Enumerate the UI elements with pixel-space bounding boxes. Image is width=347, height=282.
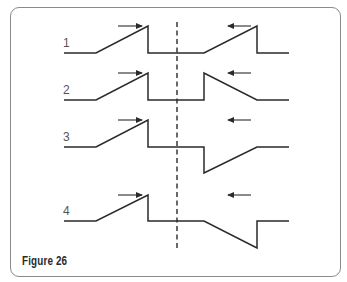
row-label: 4: [63, 204, 70, 218]
waveform-row-4: 4: [63, 195, 289, 248]
figure-caption: Figure 26: [22, 254, 67, 268]
waveform-row-1: 1: [63, 26, 289, 53]
row-label: 3: [63, 130, 70, 144]
waveform-row-3: 3: [63, 120, 289, 173]
waveform-row-2: 2: [63, 73, 289, 100]
row-label: 2: [63, 83, 70, 97]
waveform-diagram: 1234: [0, 0, 347, 282]
row-label: 1: [63, 36, 70, 50]
